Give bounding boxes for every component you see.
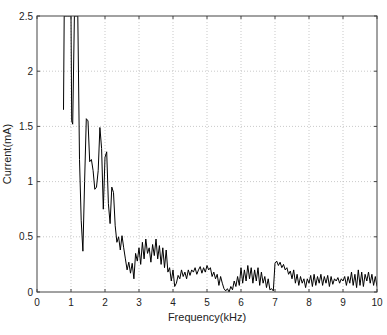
x-tick-label: 8 [306,297,312,308]
x-tick-label: 5 [204,297,210,308]
y-axis-ticks: 00.511.522.5 [19,11,377,298]
x-tick-label: 10 [371,297,383,308]
x-tick-label: 4 [170,297,176,308]
x-tick-label: 9 [340,297,346,308]
x-tick-label: 7 [272,297,278,308]
current-series-line [64,16,378,292]
y-tick-label: 2.5 [19,11,33,22]
y-tick-label: 0.5 [19,231,33,242]
line-chart: 012345678910 00.511.522.5 Frequency(kHz)… [0,0,387,335]
x-tick-label: 2 [102,297,108,308]
x-tick-label: 0 [34,297,40,308]
x-tick-label: 1 [68,297,74,308]
y-tick-label: 2 [27,66,33,77]
y-tick-label: 0 [27,287,33,298]
x-tick-label: 6 [238,297,244,308]
y-tick-label: 1 [27,176,33,187]
y-tick-label: 1.5 [19,121,33,132]
x-axis-ticks: 012345678910 [34,16,383,308]
y-axis-label: Current(mA) [1,124,13,185]
x-axis-label: Frequency(kHz) [168,311,246,323]
gridlines [37,16,377,292]
x-tick-label: 3 [136,297,142,308]
